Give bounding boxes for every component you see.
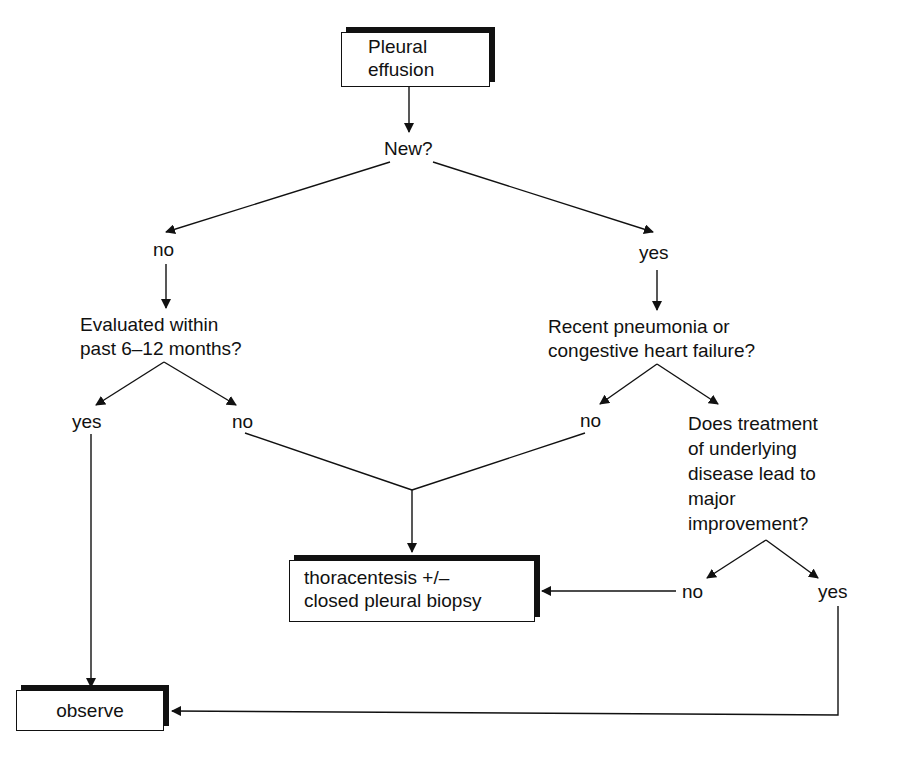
branch-evaluated-yes: yes [72, 410, 102, 433]
question-treatment-line3: disease lead to [688, 462, 816, 485]
branch-new-no: no [153, 238, 174, 261]
thoracentesis-line1: thoracentesis +/– [304, 566, 534, 589]
branch-recent-no: no [580, 409, 601, 432]
question-evaluated-line2: past 6–12 months? [80, 337, 242, 360]
question-recent-line1: Recent pneumonia or [548, 315, 730, 338]
start-node-line1: Pleural [368, 35, 489, 58]
branch-treatment-yes: yes [818, 580, 848, 603]
question-treatment-line5: improvement? [688, 512, 808, 535]
question-new: New? [384, 137, 433, 160]
question-evaluated-line1: Evaluated within [80, 313, 218, 336]
question-treatment-line2: of underlying [688, 437, 797, 460]
thoracentesis-line2: closed pleural biopsy [304, 589, 534, 612]
branch-treatment-no: no [682, 580, 703, 603]
thoracentesis-node: thoracentesis +/– closed pleural biopsy [289, 560, 535, 622]
start-node-pleural-effusion: Pleural effusion [341, 32, 490, 87]
question-treatment-line1: Does treatment [688, 412, 818, 435]
question-recent-line2: congestive heart failure? [548, 339, 755, 362]
question-treatment-line4: major [688, 487, 736, 510]
observe-node: observe [16, 690, 164, 731]
branch-new-yes: yes [639, 241, 669, 264]
flow-connectors [0, 0, 897, 767]
start-node-line2: effusion [368, 58, 489, 81]
observe-label: observe [17, 699, 163, 722]
branch-evaluated-no: no [232, 410, 253, 433]
